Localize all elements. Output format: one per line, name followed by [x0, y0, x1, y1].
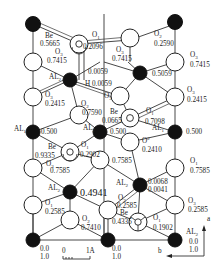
al-upper-mid-atom	[133, 66, 147, 80]
o3-center-atom	[111, 87, 129, 105]
al1-right-height: 0.500	[186, 128, 203, 136]
corner-bottom-mid-height-2: 1.0	[112, 253, 121, 261]
corner-bottom-left-height-1: 0.0	[40, 245, 49, 253]
o3-top-right-atom	[166, 53, 184, 71]
al-left-mid-atom	[26, 125, 40, 139]
b-axis-label: b	[158, 247, 162, 255]
o3-mid-left-label: O3	[45, 91, 53, 100]
al-top-left-atom	[26, 17, 41, 32]
o2-top-height: 0.2590	[154, 40, 174, 48]
be-mid-height: 0.0665	[102, 117, 122, 125]
o3-lower-right-atom	[166, 159, 184, 177]
o3-bottom-mid-atom	[99, 201, 117, 219]
o3-bottom-right-label: O3	[188, 197, 196, 206]
o2-top-label: O2	[154, 30, 162, 39]
o1-lower-label: O1	[81, 141, 89, 150]
o2-bottom-label: O2	[82, 215, 90, 224]
be-bottom-label: Be	[120, 209, 128, 217]
al2-lower-right-height-2: 0.0041	[148, 186, 168, 194]
be-bottom-height: 0.4335	[112, 218, 132, 226]
a-axis-label: a	[207, 215, 211, 223]
o-lower-mid-height: 0.7585	[112, 157, 132, 165]
al3-center-atom	[93, 125, 107, 139]
o2-bottom-height: 0.7410	[81, 224, 101, 232]
be-lower-label: Be	[48, 143, 56, 151]
o2-lower-center-height: 0.2410	[142, 146, 162, 154]
o3-top-left-height: 0.7415	[47, 57, 67, 65]
al-top-right-atom	[168, 15, 183, 30]
o3-bottom-left-label: O1	[45, 199, 53, 208]
al2-lower-right-label: AL2	[116, 179, 129, 188]
corner-bottom-left-height-2: 1.0	[40, 253, 49, 261]
axis-indicator: a b	[158, 215, 211, 258]
o3-top-left-label: O3	[55, 48, 63, 57]
o2-lower-center-label: O2	[142, 136, 150, 145]
al2-bottom-right-height-1: 0.0	[189, 238, 198, 246]
al3-center-height: 0.500	[110, 128, 127, 136]
o2-mid-height: 0.7590	[82, 109, 102, 117]
b-axis-arrow-icon	[166, 254, 172, 258]
o3-mid-right-atom	[166, 88, 184, 106]
al2-upper-height: 0.0059	[88, 68, 108, 76]
o3-bottom-right-atom	[166, 196, 184, 214]
o3-top-left-atom	[24, 53, 42, 71]
o3-mid-right-label: O3	[187, 86, 195, 95]
al2-lower-left-label: AL2	[48, 184, 61, 193]
al2-bottom-right-label: AL2	[186, 228, 199, 237]
o1-lower-height: 0.2902	[80, 151, 100, 159]
h-upper-label: H 0.0059	[85, 80, 112, 88]
o3-lower-left-atom	[24, 159, 42, 177]
al-bottom-left-atom	[26, 233, 40, 247]
o1-mid-label: O1	[146, 107, 154, 116]
corner-bottom-mid-height-1: 0.0	[112, 245, 121, 253]
o1-bottom-height: 0.1902	[153, 224, 173, 232]
o3-bottom-left-height: 0.2585	[45, 208, 65, 216]
al2-lower-right-atom	[133, 178, 147, 192]
be-top-height: 0.5665	[40, 40, 60, 48]
al2-bottom-right-atom	[168, 233, 182, 247]
o3-bottom-right-height: 0.2585	[188, 206, 208, 214]
o1-top-label: O1	[92, 31, 100, 40]
o3-top-right-height: 0.7415	[190, 61, 210, 69]
o3-lower-right-label: O1	[190, 157, 198, 166]
al3-center-label: AL3	[83, 124, 96, 133]
o2-mid-label: O2	[81, 100, 89, 109]
al-left-mid-height: 0.500	[41, 128, 58, 136]
al2-lower-right-height-1: 0.0068	[148, 178, 168, 186]
be-mid-atom	[121, 109, 139, 127]
o3-bottom-left-atom	[24, 196, 42, 214]
o3-top-mid-label: O3	[116, 46, 124, 55]
be-lower-height: 0.9335	[35, 152, 55, 160]
be-top-label: Be	[45, 32, 53, 40]
al2-lower-left-height: 0.4941	[80, 187, 108, 198]
scale-bar-end-label: 1A	[86, 247, 96, 255]
o1-top-height: 0.2096	[83, 43, 103, 51]
al1-right-atom	[168, 125, 182, 139]
o3-top-right-label: O3	[190, 51, 198, 60]
be-lower-atom	[61, 143, 79, 161]
al2-upper-atom	[63, 73, 77, 87]
o1-bottom-label: O1	[153, 214, 161, 223]
al2-bottom-right-height-2: 1.0	[189, 246, 198, 254]
al-left-mid-label: AL1	[14, 125, 27, 134]
al-upper-mid-height: 0.5059	[152, 70, 172, 78]
o3-top-mid-height: 0.7415	[112, 55, 132, 63]
o3-mid-right-height: 0.2415	[187, 96, 207, 104]
al2-lower-left-atom	[63, 185, 77, 199]
a-axis-arrow-icon	[202, 225, 206, 231]
scale-bar-start-label: 0	[62, 247, 66, 255]
o3-lower-right-height: 0.7585	[190, 167, 210, 175]
o3-mid-left-height: 0.2415	[45, 100, 65, 108]
be-mid-label: Be	[110, 108, 118, 116]
crystal-structure-diagram: Be 0.5665 O1 0.2096 O3 0.7415 O2 0.2590 …	[0, 0, 224, 277]
o3-mid-left-atom	[24, 88, 42, 106]
o3-lower-left-height: 0.7585	[50, 167, 70, 175]
scale-bar: 0 1A	[62, 247, 96, 259]
o2-top-atom	[121, 29, 139, 47]
al2-upper-label: AL2	[49, 73, 62, 82]
